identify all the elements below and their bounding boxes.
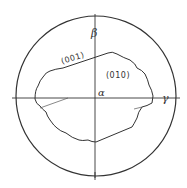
face-001-label: (001) <box>60 50 86 66</box>
alpha-label: α <box>98 87 105 98</box>
stereogram: β γ α (001) (010) <box>0 0 187 188</box>
face-010-label: (010) <box>106 71 130 80</box>
beta-label: β <box>90 27 97 40</box>
trace-line-left <box>40 98 68 108</box>
gamma-label: γ <box>162 92 169 105</box>
crystal-outline <box>35 52 153 142</box>
primitive-circle <box>16 16 176 176</box>
